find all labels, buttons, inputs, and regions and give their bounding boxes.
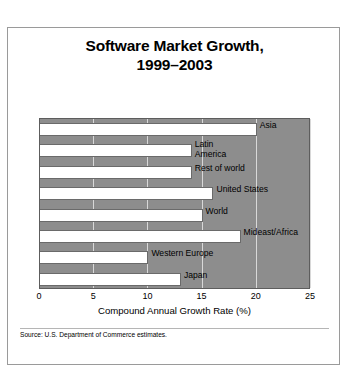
bar-label: World [206, 207, 228, 217]
chart-title-line-2: 1999–2003 [8, 55, 341, 74]
x-axis: 0510152025 [39, 289, 310, 305]
bar [40, 251, 148, 264]
bar [40, 187, 213, 200]
source-divider [20, 328, 329, 329]
chart-title: Software Market Growth, 1999–2003 [8, 36, 341, 74]
bar-row: Asia [40, 119, 309, 140]
bar-label: Mideast/Africa [244, 228, 298, 238]
bar [40, 209, 203, 222]
chart-title-line-1: Software Market Growth, [8, 36, 341, 55]
bar-row: Mideast/Africa [40, 226, 309, 247]
bar-row: Rest of world [40, 162, 309, 183]
bar-row: Japan [40, 269, 309, 290]
bar-row: Western Europe [40, 247, 309, 268]
bar-row: World [40, 205, 309, 226]
bar-row: Latin America [40, 140, 309, 161]
x-tick-label: 15 [197, 291, 207, 301]
bar-label: Japan [184, 271, 207, 281]
source-note: Source: U.S. Department of Commerce esti… [20, 331, 167, 338]
bar [40, 166, 192, 179]
x-tick-label: 20 [251, 291, 261, 301]
plot-area: AsiaLatin AmericaRest of worldUnited Sta… [39, 118, 310, 289]
gridline [310, 119, 311, 288]
bar-label: Asia [260, 121, 277, 131]
chart-figure: Software Market Growth, 1999–2003 AsiaLa… [7, 27, 340, 365]
bar-label: Western Europe [151, 249, 213, 259]
bar [40, 230, 241, 243]
bar-label: Latin America [195, 140, 237, 159]
x-tick-label: 5 [91, 291, 96, 301]
x-tick-label: 0 [36, 291, 41, 301]
bar [40, 273, 181, 286]
bar-row: United States [40, 183, 309, 204]
x-tick-label: 10 [142, 291, 152, 301]
x-tick-label: 25 [305, 291, 315, 301]
x-axis-title: Compound Annual Growth Rate (%) [39, 305, 310, 316]
bar-label: United States [216, 185, 268, 195]
bar-label: Rest of world [195, 164, 245, 174]
bar [40, 123, 257, 136]
bar [40, 144, 192, 157]
